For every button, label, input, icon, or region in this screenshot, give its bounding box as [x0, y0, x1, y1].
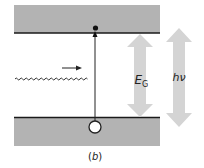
band-gap-label: EG	[135, 73, 149, 89]
valence-band	[14, 118, 160, 146]
photon-wave-icon	[15, 78, 88, 80]
photon-direction-arrow-icon	[62, 66, 82, 71]
hole-icon	[89, 121, 101, 133]
conduction-band	[14, 5, 160, 33]
photon-energy-label: hν	[173, 71, 186, 84]
electron-icon	[93, 25, 98, 30]
band-gap-diagram: EG hν (b)	[0, 0, 204, 168]
figure-caption: (b)	[88, 151, 102, 162]
